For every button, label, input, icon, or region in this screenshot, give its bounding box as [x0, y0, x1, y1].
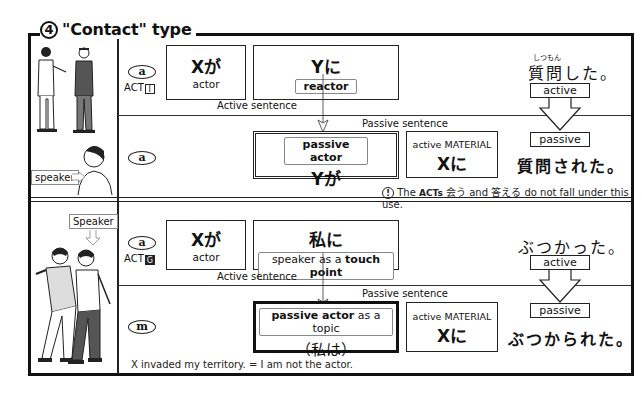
active-material-main: Xに	[407, 322, 497, 347]
passive-actor-topic-label: passive actor as a topic	[259, 308, 393, 336]
circle-marker-a: a	[128, 151, 156, 165]
passive-actor-box: passive actor Yが	[253, 131, 399, 179]
touch-point-main: 私に	[254, 226, 398, 251]
act-label: ACTI	[124, 82, 155, 94]
note: X invaded my territory. = I am not the a…	[131, 359, 353, 370]
left-column-divider	[117, 36, 119, 374]
act-label: ACTG	[124, 253, 155, 265]
active-material-box: active MATERIAL Xに	[406, 131, 498, 178]
act-badge: G	[145, 255, 155, 265]
circle-marker-m: m	[128, 320, 156, 334]
passive-verb: ぶつかられた。	[508, 326, 634, 350]
passive-tag: passive	[530, 132, 590, 147]
passive-sentence-caption: Passive sentence	[362, 288, 448, 299]
active-material-label: active MATERIAL	[407, 311, 497, 322]
circled-number: 4	[40, 21, 58, 39]
actor-box-main: Xが	[167, 226, 245, 251]
actor-box: Xが actor	[166, 220, 246, 270]
speaker-pointer-arrow	[72, 172, 86, 182]
active-sentence-caption: Active sentence	[217, 100, 297, 111]
passive-sentence-caption: Passive sentence	[362, 118, 448, 129]
two-men-talking-illustration	[30, 44, 116, 139]
active-tag: active	[530, 255, 590, 270]
actor-box-sub: actor	[167, 251, 245, 263]
active-to-passive-arrow	[537, 270, 583, 304]
circle-marker-a: a	[128, 65, 156, 79]
active-verb: 質問した。	[528, 60, 618, 84]
passive-actor-main: Yが	[256, 165, 396, 190]
section-title: 4"Contact" type	[40, 20, 196, 39]
passive-verb: 質問された。	[517, 153, 625, 177]
passive-actor-topic-main: （私は）	[256, 338, 396, 359]
circle-marker-a: a	[128, 236, 156, 250]
two-men-bumping-illustration	[32, 246, 116, 368]
speaker-down-arrow	[86, 230, 100, 246]
speaker-illustration	[72, 143, 116, 195]
warning-icon: !	[382, 187, 394, 199]
active-sentence-caption: Active sentence	[217, 271, 297, 282]
actor-box: Xが actor	[166, 45, 246, 100]
actor-box-sub: actor	[167, 78, 245, 90]
passive-actor-label: passive actor	[284, 137, 368, 165]
act-badge: I	[145, 84, 155, 94]
passive-tag: passive	[530, 303, 590, 318]
speaker-label: Speaker	[69, 214, 118, 229]
active-material-main: Xに	[407, 150, 497, 175]
actor-box-main: Xが	[167, 53, 245, 78]
active-material-label: active MATERIAL	[407, 139, 497, 150]
note: ! The ACTs 会う and 答える do not fall under …	[382, 184, 642, 210]
active-tag: active	[530, 83, 590, 98]
reactor-to-passive-actor-arrow	[316, 74, 330, 134]
active-material-box: active MATERIAL Xに	[406, 302, 498, 352]
active-to-passive-arrow	[537, 98, 583, 132]
title-text: "Contact" type	[62, 20, 192, 39]
passive-actor-topic-box: passive actor as a topic （私は）	[253, 301, 399, 353]
